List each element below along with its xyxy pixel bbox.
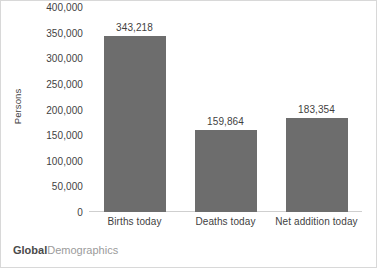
y-axis-tick-label: 250,000 (46, 78, 83, 89)
bar-value-label: 159,864 (207, 116, 244, 127)
y-axis-tick-labels: 400,000350,000300,000250,000200,000150,0… (25, 7, 83, 218)
x-axis-category-labels: Births todayDeaths todayNet addition tod… (89, 215, 362, 255)
bar[interactable] (286, 118, 348, 212)
y-axis-tick-label: 100,000 (46, 155, 83, 166)
x-axis-tick-label: Births today (89, 215, 180, 228)
y-axis-tick-label: 350,000 (46, 27, 83, 38)
bar[interactable] (195, 130, 257, 212)
plot-area: 343,218159,864183,354 (89, 7, 362, 212)
bar-slot: 159,864 (180, 7, 271, 212)
brand-logo-primary: Global (13, 244, 47, 256)
y-axis-tick-label: 0 (77, 207, 83, 218)
x-axis-tick-label: Deaths today (180, 215, 271, 228)
bar[interactable] (104, 36, 166, 212)
bar-chart-figure: Persons 400,000350,000300,000250,000200,… (0, 0, 377, 268)
bar-slot: 183,354 (271, 7, 362, 212)
bar-value-label: 343,218 (116, 22, 153, 33)
x-axis-tick-label: Net addition today (271, 215, 362, 228)
y-axis-tick-label: 300,000 (46, 53, 83, 64)
brand-logo: GlobalDemographics (13, 244, 118, 256)
y-axis-tick-label: 200,000 (46, 104, 83, 115)
y-axis-tick-label: 150,000 (46, 130, 83, 141)
bar-slot: 343,218 (89, 7, 180, 212)
y-axis-title: Persons (10, 1, 26, 212)
y-axis-tick-label: 400,000 (46, 2, 83, 13)
y-axis-tick-label: 50,000 (52, 181, 83, 192)
brand-logo-secondary: Demographics (47, 244, 118, 256)
bar-value-label: 183,354 (298, 104, 335, 115)
y-axis-title-text: Persons (13, 89, 24, 125)
